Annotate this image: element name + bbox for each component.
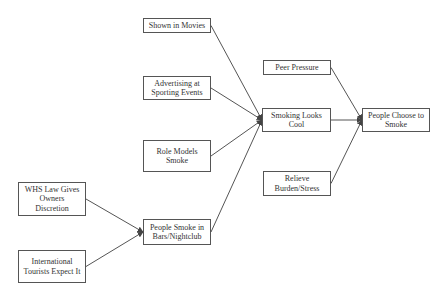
- diagram-canvas: Shown in Movies Advertising at Sporting …: [0, 0, 445, 300]
- edge-relieve-to-choose: [331, 120, 362, 184]
- node-role-models-smoke: Role Models Smoke: [143, 140, 211, 172]
- edge-tourists-to-bars: [86, 232, 143, 267]
- edge-movies-to-cool: [211, 26, 262, 121]
- node-relieve-burden-stress: Relieve Burden/Stress: [263, 171, 331, 196]
- node-label: People Smoke in Bars/Nightclub: [147, 223, 207, 242]
- node-label: People Choose to Smoke: [366, 111, 426, 130]
- node-smoking-looks-cool: Smoking Looks Cool: [262, 108, 331, 132]
- node-advertising-at-sporting-events: Advertising at Sporting Events: [143, 76, 211, 100]
- edge-advertising-to-cool: [211, 88, 262, 120]
- node-label: Advertising at Sporting Events: [147, 79, 207, 98]
- node-label: Role Models Smoke: [147, 147, 207, 166]
- node-label: Peer Pressure: [275, 63, 318, 73]
- node-label: WHS Law Gives Owners Discretion: [22, 185, 82, 214]
- edge-bars-to-cool: [211, 120, 262, 232]
- node-label: Relieve Burden/Stress: [267, 174, 327, 193]
- node-whs-law-gives-owners-discretion: WHS Law Gives Owners Discretion: [18, 182, 86, 216]
- node-people-choose-to-smoke: People Choose to Smoke: [362, 108, 430, 132]
- node-label: Shown in Movies: [149, 21, 205, 31]
- node-label: International Tourists Expect It: [22, 257, 82, 276]
- node-shown-in-movies: Shown in Movies: [143, 18, 211, 33]
- edge-whs-to-bars: [86, 199, 143, 232]
- node-peer-pressure: Peer Pressure: [263, 60, 331, 75]
- node-people-smoke-in-bars: People Smoke in Bars/Nightclub: [143, 219, 211, 245]
- node-label: Smoking Looks Cool: [266, 111, 327, 130]
- edge-peer-to-choose: [331, 68, 362, 121]
- node-international-tourists-expect-it: International Tourists Expect It: [18, 250, 86, 283]
